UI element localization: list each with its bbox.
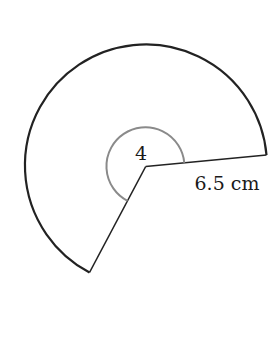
radius-right — [146, 155, 267, 167]
sector-diagram: 4 6.5 cm — [0, 0, 274, 343]
radius-lower — [90, 167, 146, 273]
radius-label: 6.5 cm — [195, 172, 260, 194]
angle-label: 4 — [135, 142, 147, 164]
